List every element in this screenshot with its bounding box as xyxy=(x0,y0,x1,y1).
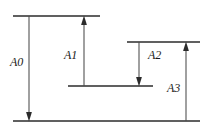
measurement-arrow-a1 xyxy=(81,16,87,87)
diagram-canvas xyxy=(0,0,206,137)
measurement-arrow-a3 xyxy=(183,42,189,122)
arrow-head-a2-down xyxy=(136,77,142,87)
arrow-head-a3-up xyxy=(183,42,189,52)
amplitude-level-diagram: A0 A1 A2 A3 xyxy=(0,0,206,137)
arrow-head-a1-up xyxy=(81,16,87,26)
measurement-arrow-a2 xyxy=(136,42,142,87)
measurement-arrow-a0 xyxy=(26,16,32,122)
label-a2: A2 xyxy=(148,49,161,61)
label-a0: A0 xyxy=(10,56,23,68)
arrow-head-a0-down xyxy=(26,112,32,122)
label-a3: A3 xyxy=(167,82,180,94)
label-a1: A1 xyxy=(64,49,77,61)
